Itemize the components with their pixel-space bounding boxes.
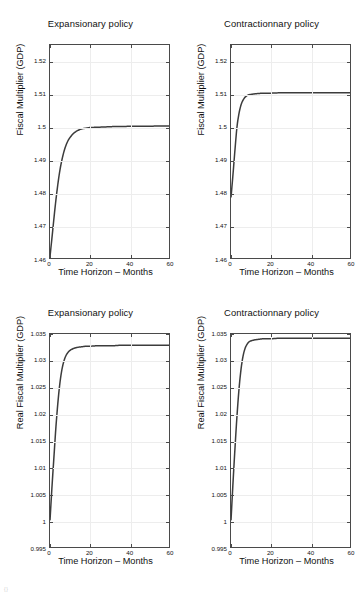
y-axis-tick-mark <box>166 388 169 389</box>
y-axis-tick-mark <box>166 161 169 162</box>
y-axis-tick-mark <box>231 522 234 523</box>
grid-line-horizontal <box>231 442 350 443</box>
grid-line-horizontal <box>50 361 169 362</box>
figure-canvas: Expansionary policy 1.461.471.481.491.51… <box>0 0 362 594</box>
y-axis-tick-mark <box>50 495 53 496</box>
plot-area <box>230 333 351 548</box>
grid-line-horizontal <box>231 128 350 129</box>
curve-path <box>231 338 350 520</box>
x-tick-label: 40 <box>118 260 142 267</box>
grid-line-horizontal <box>231 468 350 469</box>
y-axis-tick-mark <box>166 128 169 129</box>
plot-area <box>230 44 351 259</box>
y-axis-tick-mark <box>50 522 53 523</box>
x-tick-label: 20 <box>258 260 282 267</box>
curve-path <box>231 93 350 198</box>
y-axis-tick-mark <box>50 415 53 416</box>
y-axis-tick-mark <box>166 227 169 228</box>
x-axis-title: Time Horizon – Months <box>211 556 362 567</box>
x-axis-tick-mark <box>50 544 51 547</box>
y-axis-tick-mark <box>347 468 350 469</box>
grid-line-horizontal <box>50 468 169 469</box>
grid-line-vertical <box>271 45 272 258</box>
y-axis-tick-mark <box>231 442 234 443</box>
plot-area <box>49 333 170 548</box>
x-axis-tick-mark <box>131 45 132 48</box>
x-axis-tick-mark <box>50 255 51 258</box>
y-axis-tick-mark <box>166 415 169 416</box>
y-axis-tick-mark <box>166 361 169 362</box>
y-axis-tick-mark <box>231 415 234 416</box>
grid-line-horizontal <box>231 415 350 416</box>
x-axis-tick-mark <box>231 45 232 48</box>
y-tick-label: 1.47 <box>2 222 46 229</box>
y-tick-label: 1 <box>2 518 46 525</box>
chart-panel-top-left: Expansionary policy 1.461.471.481.491.51… <box>0 4 181 294</box>
grid-line-vertical <box>312 334 313 547</box>
y-tick-label: 1.47 <box>183 222 227 229</box>
grid-line-horizontal <box>50 495 169 496</box>
x-axis-tick-mark <box>50 45 51 48</box>
x-tick-label: 60 <box>158 260 182 267</box>
y-axis-tick-mark <box>50 361 53 362</box>
y-axis-tick-mark <box>50 442 53 443</box>
grid-line-vertical <box>90 45 91 258</box>
y-axis-tick-mark <box>231 361 234 362</box>
y-tick-label: 1.005 <box>183 491 227 498</box>
y-axis-tick-mark <box>231 128 234 129</box>
grid-line-horizontal <box>231 495 350 496</box>
x-axis-tick-mark <box>90 544 91 547</box>
x-axis-tick-mark <box>131 255 132 258</box>
y-axis-tick-mark <box>166 62 169 63</box>
x-axis-tick-mark <box>90 334 91 337</box>
y-axis-tick-mark <box>166 95 169 96</box>
y-axis-tick-mark <box>50 128 53 129</box>
x-axis-tick-mark <box>50 334 51 337</box>
y-axis-tick-mark <box>166 468 169 469</box>
y-axis-tick-mark <box>231 227 234 228</box>
y-tick-label: 1.01 <box>2 464 46 471</box>
y-tick-label: 1.48 <box>183 189 227 196</box>
corner-artifact: {} <box>4 586 8 592</box>
grid-line-horizontal <box>231 62 350 63</box>
y-axis-tick-mark <box>50 388 53 389</box>
grid-line-horizontal <box>50 388 169 389</box>
y-tick-label: 1 <box>183 518 227 525</box>
x-axis-tick-mark <box>90 255 91 258</box>
grid-line-horizontal <box>50 194 169 195</box>
x-axis-tick-mark <box>271 334 272 337</box>
grid-line-horizontal <box>50 227 169 228</box>
x-axis-tick-mark <box>271 255 272 258</box>
panel-title: Expansionary policy <box>0 307 181 318</box>
x-axis-tick-mark <box>231 255 232 258</box>
y-axis-tick-mark <box>347 62 350 63</box>
y-axis-title: Real Fiscal Multiplier (GDP) <box>15 283 26 463</box>
x-tick-label: 60 <box>158 549 182 556</box>
panel-title: Contractionnary policy <box>181 307 362 318</box>
y-axis-tick-mark <box>50 95 53 96</box>
x-axis-tick-mark <box>312 45 313 48</box>
y-axis-tick-mark <box>347 442 350 443</box>
curve-path <box>50 345 169 520</box>
y-axis-tick-mark <box>50 468 53 469</box>
y-axis-tick-mark <box>231 95 234 96</box>
y-axis-tick-mark <box>50 62 53 63</box>
x-axis-title: Time Horizon – Months <box>30 267 181 278</box>
panel-title: Expansionary policy <box>0 18 181 29</box>
y-axis-tick-mark <box>231 62 234 63</box>
y-axis-tick-mark <box>347 522 350 523</box>
y-axis-tick-mark <box>347 334 350 335</box>
chart-panel-bottom-left: Expansionary policy 0.99511.0051.011.015… <box>0 293 181 583</box>
y-axis-tick-mark <box>231 194 234 195</box>
panel-title: Contractionnary policy <box>181 18 362 29</box>
y-axis-tick-mark <box>231 388 234 389</box>
x-tick-label: 60 <box>339 549 362 556</box>
y-axis-tick-mark <box>50 227 53 228</box>
chart-panel-top-right: Contractionnary policy 1.461.471.481.491… <box>181 4 362 294</box>
y-axis-tick-mark <box>347 161 350 162</box>
x-tick-label: 40 <box>299 260 323 267</box>
x-axis-tick-mark <box>271 544 272 547</box>
x-axis-tick-mark <box>312 334 313 337</box>
y-axis-title: Fiscal Multiplier (GDP) <box>15 10 26 170</box>
x-axis-tick-mark <box>231 334 232 337</box>
